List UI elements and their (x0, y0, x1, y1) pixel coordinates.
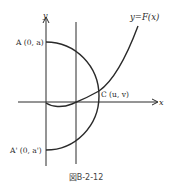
x-axis-label: x (159, 98, 164, 107)
point-a-prime-label: A' (0, a') (9, 146, 42, 155)
point-c-label: C (u, v) (101, 90, 129, 99)
point-a-label: A (0, a) (15, 38, 44, 47)
curve-label: y=F(x) (129, 12, 159, 22)
figure-diagram: y x y=F(x) A (0, a) A' (0, a') C (u, v) … (0, 0, 172, 186)
y-axis-label: y (42, 11, 48, 20)
figure-caption: 図B-2-12 (69, 173, 104, 182)
